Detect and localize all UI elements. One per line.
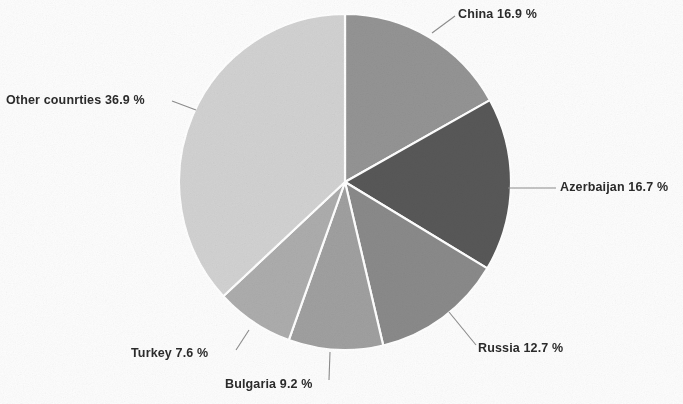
leader-line-china	[432, 16, 455, 33]
slice-label-other-countries: Other counrties 36.9 %	[6, 93, 145, 107]
slice-label-bulgaria: Bulgaria 9.2 %	[225, 377, 313, 391]
pie-chart-figure: China 16.9 % Azerbaijan 16.7 % Russia 12…	[0, 0, 683, 404]
leader-line-other	[172, 101, 196, 110]
slice-label-azerbaijan: Azerbaijan 16.7 %	[560, 180, 668, 194]
slice-label-russia: Russia 12.7 %	[478, 341, 563, 355]
pie-chart-canvas	[0, 0, 683, 404]
leader-line-bulgaria	[329, 352, 330, 380]
leader-line-turkey	[236, 330, 249, 350]
slice-label-china: China 16.9 %	[458, 7, 537, 21]
slice-label-turkey: Turkey 7.6 %	[131, 346, 208, 360]
pie-slices-group	[179, 14, 511, 350]
leader-line-russia	[449, 312, 476, 345]
